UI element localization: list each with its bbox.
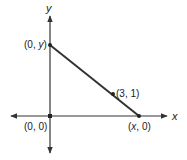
x-axis-label: x [171,110,178,122]
point-origin [48,114,52,118]
label-point-3-1: (3, 1) [116,88,139,99]
label-origin: (0, 0) [24,121,47,132]
label-x-intercept: (x, 0) [128,121,151,132]
point-y-intercept [48,43,52,47]
y-axis-label: y [45,2,53,14]
point-x-intercept [137,114,141,118]
coordinate-diagram: y x (0, y) (x, 0) (3, 1) (0, 0) [0,0,187,160]
intercept-line [50,45,139,116]
point-3-1 [111,92,115,96]
label-y-intercept: (0, y) [24,39,47,50]
